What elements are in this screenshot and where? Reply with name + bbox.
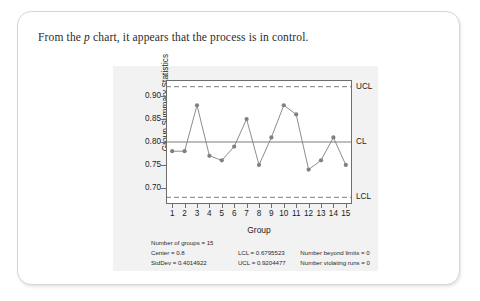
y-axis-tick-label: 0.85 bbox=[135, 115, 161, 123]
data-point bbox=[282, 103, 286, 107]
x-axis-tick-mark bbox=[209, 204, 210, 208]
x-axis-tick-mark bbox=[271, 204, 272, 208]
data-point bbox=[195, 103, 199, 107]
x-axis-tick-mark bbox=[197, 204, 198, 208]
stats-cell-mid: UCL = 0.9204477 bbox=[238, 258, 300, 268]
x-axis-tick-mark bbox=[284, 204, 285, 208]
figure-card: From the p chart, it appears that the pr… bbox=[17, 11, 460, 285]
caption-before: From the bbox=[38, 31, 84, 43]
stats-cell-right: Number violating runs = 0 bbox=[300, 258, 376, 268]
y-axis-tick-label: 0.90 bbox=[135, 92, 161, 100]
x-axis-title: Group bbox=[166, 225, 352, 235]
y-axis-tick-labels: 0.700.750.800.850.90 bbox=[133, 80, 161, 204]
limit-label-ucl: UCL bbox=[356, 83, 372, 91]
x-axis-tick-mark bbox=[346, 204, 347, 208]
data-point bbox=[294, 112, 298, 116]
y-axis-tick-label: 0.70 bbox=[135, 184, 161, 192]
data-point bbox=[245, 117, 249, 121]
stats-cell-right: Number beyond limits = 0 bbox=[300, 248, 376, 258]
limit-label-cl: CL bbox=[356, 138, 366, 146]
stats-row: Number of groups = 15 bbox=[151, 238, 376, 248]
data-point bbox=[269, 135, 273, 139]
x-axis-tick-mark bbox=[185, 204, 186, 208]
x-axis-tick-mark bbox=[172, 204, 173, 208]
stats-cell-right bbox=[300, 238, 376, 248]
x-axis-tick-mark bbox=[259, 204, 260, 208]
stats-row: StdDev = 0.4014922UCL = 0.9204477Number … bbox=[151, 258, 376, 268]
x-axis-tick-mark bbox=[222, 204, 223, 208]
data-point bbox=[257, 163, 261, 167]
y-axis-tick-label: 0.80 bbox=[135, 138, 161, 146]
data-point bbox=[207, 154, 211, 158]
stats-row: Center = 0.8LCL = 0.6795523Number beyond… bbox=[151, 248, 376, 258]
data-point bbox=[220, 158, 224, 162]
data-point bbox=[232, 144, 236, 148]
caption-after: chart, it appears that the process is in… bbox=[90, 31, 309, 43]
y-axis-tick-label: 0.75 bbox=[135, 161, 161, 169]
data-point bbox=[331, 135, 335, 139]
control-chart-plot bbox=[166, 80, 352, 204]
x-axis-tick-label: 15 bbox=[338, 210, 354, 218]
data-point bbox=[183, 149, 187, 153]
x-axis-tick-mark bbox=[321, 204, 322, 208]
y-axis-title-wrap: Group Summary Statistics bbox=[115, 80, 129, 204]
stats-cell-mid: LCL = 0.6795523 bbox=[238, 248, 300, 258]
x-axis-tick-mark bbox=[296, 204, 297, 208]
x-axis-tick-mark bbox=[247, 204, 248, 208]
caption-text: From the p chart, it appears that the pr… bbox=[38, 31, 309, 43]
x-axis-tick-mark bbox=[309, 204, 310, 208]
stats-cell-mid bbox=[238, 238, 300, 248]
data-point bbox=[307, 167, 311, 171]
data-point bbox=[344, 163, 348, 167]
x-axis-tick-mark bbox=[333, 204, 334, 208]
stats-cell-left: StdDev = 0.4014922 bbox=[151, 258, 238, 268]
stats-cell-left: Number of groups = 15 bbox=[151, 238, 238, 248]
x-axis-tick-mark bbox=[234, 204, 235, 208]
chart-figure: Group Summary Statistics 0.700.750.800.8… bbox=[113, 66, 378, 271]
data-point bbox=[170, 149, 174, 153]
chart-summary-stats: Number of groups = 15Center = 0.8LCL = 0… bbox=[151, 238, 376, 268]
stats-cell-left: Center = 0.8 bbox=[151, 248, 238, 258]
data-point bbox=[319, 158, 323, 162]
limit-label-lcl: LCL bbox=[356, 193, 371, 201]
